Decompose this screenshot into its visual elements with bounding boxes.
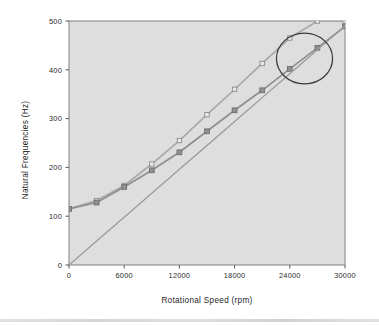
- data-point-marker: [232, 87, 236, 91]
- x-tick-label: 30000: [334, 271, 356, 280]
- x-axis-title: Rotational Speed (rpm): [161, 296, 252, 305]
- y-axis-tick-labels: 0100200300400500: [49, 17, 62, 270]
- y-tick-label: 200: [49, 163, 62, 172]
- y-tick-label: 500: [49, 17, 62, 26]
- y-tick-label: 0: [58, 261, 62, 270]
- y-axis-title: Natural Frequencies (Hz): [21, 101, 30, 200]
- data-point-marker: [177, 138, 181, 142]
- y-tick-label: 100: [49, 212, 62, 221]
- x-tick-label: 6000: [116, 271, 133, 280]
- x-axis-tick-labels: 0600012000180002400030000: [67, 271, 356, 280]
- data-point-marker: [94, 200, 99, 205]
- data-point-marker: [287, 66, 292, 71]
- data-point-marker: [343, 19, 347, 23]
- data-point-marker: [122, 185, 127, 190]
- scan-artifact-line: [0, 319, 379, 322]
- data-point-marker: [232, 108, 237, 113]
- data-point-marker: [260, 88, 265, 93]
- data-point-marker: [205, 113, 209, 117]
- x-tick-label: 18000: [224, 271, 246, 280]
- x-tick-label: 0: [67, 271, 71, 280]
- data-point-marker: [260, 61, 264, 65]
- x-tick-label: 24000: [279, 271, 301, 280]
- data-point-marker: [177, 150, 182, 155]
- data-point-marker: [67, 206, 72, 211]
- figure-canvas: 0600012000180002400030000 01002003004005…: [0, 0, 379, 326]
- campbell-diagram-chart: 0600012000180002400030000 01002003004005…: [0, 0, 379, 326]
- y-tick-label: 400: [49, 66, 62, 75]
- y-tick-label: 300: [49, 114, 62, 123]
- data-point-marker: [315, 19, 319, 23]
- data-point-marker: [150, 162, 154, 166]
- data-point-marker: [205, 129, 210, 134]
- data-point-marker: [149, 168, 154, 173]
- x-tick-label: 12000: [169, 271, 191, 280]
